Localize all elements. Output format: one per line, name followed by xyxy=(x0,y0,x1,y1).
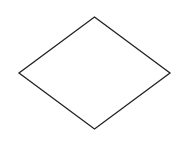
diagram-canvas xyxy=(0,0,182,154)
decision-diamond-shape xyxy=(19,17,170,129)
